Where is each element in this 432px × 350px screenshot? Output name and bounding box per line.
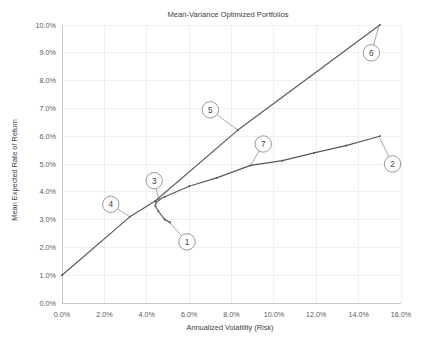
y-tick-label: 10.0% [36,21,57,30]
callout-label: 1 [185,238,190,247]
callout-label: 2 [390,160,395,169]
data-point-marker [155,201,157,203]
x-tick-label: 14.0% [348,310,369,319]
y-tick-label: 3.0% [40,215,57,224]
data-point-marker [164,219,166,221]
mean-variance-chart: Mean-Variance Optimized Portfolios 0.0%1… [0,0,432,350]
y-tick-label: 6.0% [40,132,57,141]
callout-label: 4 [108,200,113,209]
page-caption [0,338,432,350]
callout-label: 5 [208,106,213,115]
data-point-marker [379,24,381,26]
y-axis-title: Mean Expected Rate of Return [10,119,19,220]
data-point-marker [345,145,347,147]
data-point-marker [216,177,218,179]
callout-label: 6 [369,49,374,58]
x-tick-label: 10.0% [264,310,285,319]
x-tick-label: 2.0% [96,310,113,319]
y-tick-label: 8.0% [40,76,57,85]
chart-container: Mean-Variance Optimized Portfolios 0.0%1… [0,0,432,350]
callout-label: 7 [261,140,266,149]
data-point-marker [281,160,283,162]
data-point-marker [188,185,190,187]
x-tick-label: 8.0% [223,310,240,319]
data-point-marker [158,210,160,212]
x-tick-label: 6.0% [181,310,198,319]
x-tick-label: 16.0% [391,310,412,319]
y-tick-label: 4.0% [40,187,57,196]
data-point-marker [313,152,315,154]
x-tick-label: 0.0% [54,310,71,319]
y-tick-label: 2.0% [40,243,57,252]
chart-title: Mean-Variance Optimized Portfolios [168,10,289,19]
x-axis-title: Annualized Volatility (Risk) [186,323,273,332]
y-tick-label: 0.0% [40,299,57,308]
y-tick-label: 7.0% [40,104,57,113]
y-tick-label: 5.0% [40,160,57,169]
data-point-marker [61,274,63,276]
data-point-marker [379,135,381,137]
data-point-marker [164,196,166,198]
data-point-marker [159,199,161,201]
callout-label: 3 [152,177,157,186]
y-tick-label: 1.0% [40,271,57,280]
data-point-marker [154,205,156,207]
x-tick-label: 4.0% [139,310,156,319]
x-axis-tick-labels: 0.0%2.0%4.0%6.0%8.0%10.0%12.0%14.0%16.0% [54,310,412,319]
x-tick-label: 12.0% [306,310,327,319]
y-tick-label: 9.0% [40,48,57,57]
